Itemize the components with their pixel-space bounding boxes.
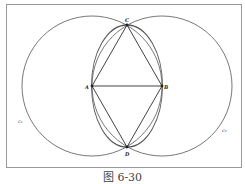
geometry-diagram: A B C D c₁ c₂ xyxy=(0,0,245,184)
point-B xyxy=(161,85,164,88)
label-D: D xyxy=(124,151,130,157)
segment-DB xyxy=(127,86,162,147)
point-C xyxy=(126,24,129,27)
segment-AD xyxy=(92,86,127,147)
label-c1: c₁ xyxy=(18,118,23,124)
label-c2: c₂ xyxy=(222,127,227,133)
point-A xyxy=(91,85,94,88)
label-C: C xyxy=(125,17,129,23)
point-D xyxy=(126,146,129,149)
figure-caption: 图 6-30 xyxy=(0,168,245,184)
label-A: A xyxy=(84,84,89,90)
label-B: B xyxy=(163,84,168,90)
segment-CB xyxy=(127,25,162,86)
segment-AC xyxy=(92,25,127,86)
